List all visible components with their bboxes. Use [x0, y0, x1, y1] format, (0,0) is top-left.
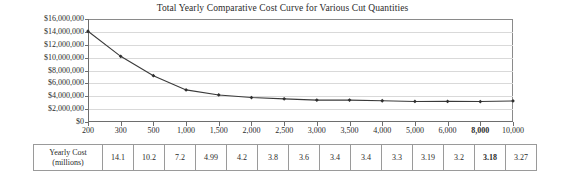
x-axis-tick-label: 10,000 [502, 126, 524, 135]
cost-curve-series [88, 19, 513, 122]
y-axis-tick-label: $10,000,000 [12, 53, 84, 62]
table-cell-yearly-cost: 3.4 [320, 145, 351, 171]
table-row-label-line2: (millions) [52, 158, 84, 167]
table-cell-yearly-cost: 4.2 [227, 145, 258, 171]
table-cell-yearly-cost: 10.2 [134, 145, 165, 171]
x-axis-tick-label: 1,000 [177, 126, 195, 135]
data-point-marker [184, 88, 188, 92]
x-axis-tick-label: 3,000 [308, 126, 326, 135]
table-cell-yearly-cost: 14.1 [103, 145, 134, 171]
y-axis-tick-label: $12,000,000 [12, 40, 84, 49]
x-axis-tick-label: 300 [115, 126, 127, 135]
table-cell-yearly-cost: 3.8 [258, 145, 289, 171]
data-point-marker [446, 100, 450, 104]
table-cell-yearly-cost: 3.2 [444, 145, 475, 171]
x-axis-tick-label: 8,000 [471, 126, 489, 135]
data-point-marker [413, 100, 417, 104]
y-axis-tick-label: $4,000,000 [12, 91, 84, 100]
chart-figure: Total Yearly Comparative Cost Curve for … [0, 0, 565, 180]
data-point-marker [511, 99, 515, 103]
x-axis-tick-label: 200 [82, 126, 94, 135]
y-axis-tick-label: $6,000,000 [12, 78, 84, 87]
x-axis-tick-label: 3,500 [341, 126, 359, 135]
y-axis-tick-label: $0 [12, 117, 84, 126]
chart-title: Total Yearly Comparative Cost Curve for … [0, 3, 565, 13]
table-cell-yearly-cost: 3.19 [413, 145, 444, 171]
yearly-cost-table: Yearly Cost (millions) 14.110.27.24.994.… [33, 144, 537, 171]
table-cell-yearly-cost: 7.2 [165, 145, 196, 171]
y-axis-tick-label: $8,000,000 [12, 66, 84, 75]
table-cell-yearly-cost: 4.99 [196, 145, 227, 171]
x-axis-tick-label: 6,000 [439, 126, 457, 135]
table-cell-yearly-cost: 3.3 [382, 145, 413, 171]
table-cell-yearly-cost: 3.18 [475, 145, 506, 171]
table-cell-yearly-cost: 3.27 [506, 145, 537, 171]
data-point-marker [315, 98, 319, 102]
table-cell-yearly-cost: 3.6 [289, 145, 320, 171]
x-axis-labels: 2003005001,0001,5002,0002,5003,0003,5004… [88, 126, 513, 138]
y-axis-tick-label: $16,000,000 [12, 14, 84, 23]
data-point-marker [217, 93, 221, 97]
cost-curve-markers [86, 29, 515, 103]
x-axis-tick-label: 5,000 [406, 126, 424, 135]
x-axis-tick-label: 2,000 [242, 126, 260, 135]
y-axis-tick-label: $14,000,000 [12, 27, 84, 36]
table-row: Yearly Cost (millions) 14.110.27.24.994.… [34, 145, 537, 171]
y-axis-labels: $16,000,000$14,000,000$12,000,000$10,000… [10, 19, 84, 122]
data-point-marker [282, 97, 286, 101]
x-axis-tick-label: 4,000 [373, 126, 391, 135]
table-row-label-line1: Yearly Cost [49, 148, 87, 157]
cost-curve-line [88, 31, 513, 101]
table-cell-yearly-cost: 3.4 [351, 145, 382, 171]
y-axis-tick-label: $2,000,000 [12, 104, 84, 113]
data-point-marker [478, 100, 482, 104]
data-point-marker [348, 98, 352, 102]
data-point-marker [380, 99, 384, 103]
table-row-label: Yearly Cost (millions) [34, 145, 103, 171]
x-axis-tick-label: 1,500 [210, 126, 228, 135]
data-point-marker [250, 96, 254, 100]
x-axis-tick-label: 2,500 [275, 126, 293, 135]
plot-frame [88, 19, 513, 122]
x-axis-tick-label: 500 [147, 126, 159, 135]
